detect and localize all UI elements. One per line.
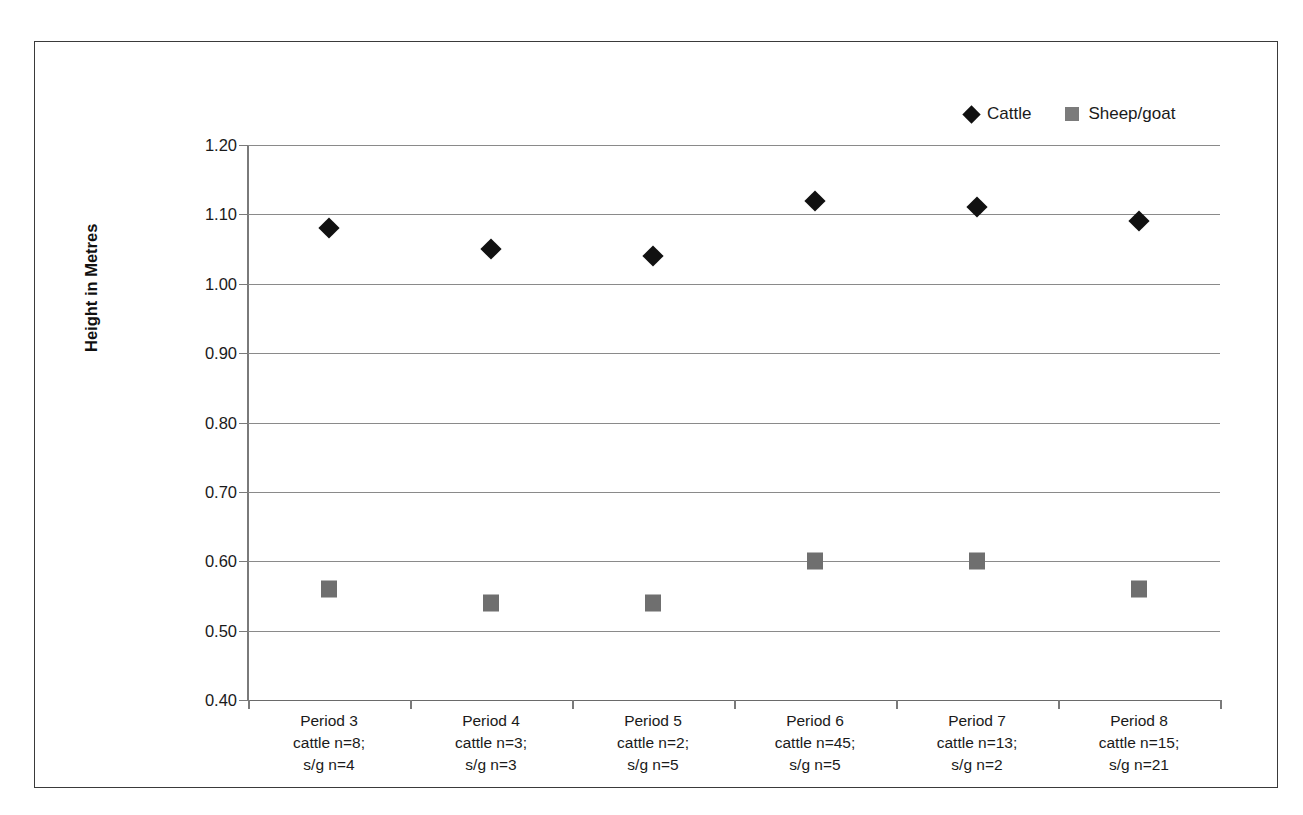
x-axis-label-line: cattle n=8;: [248, 732, 410, 754]
diamond-marker-icon: [962, 105, 980, 123]
x-axis-category-label: Period 8cattle n=15;s/g n=21: [1058, 710, 1220, 790]
legend-item-sheep-goat[interactable]: Sheep/goat: [1065, 104, 1175, 124]
data-point-sheep-goat[interactable]: [807, 553, 823, 570]
x-axis-label-line: cattle n=15;: [1058, 732, 1220, 754]
data-point-cattle[interactable]: [642, 245, 663, 266]
x-axis-category-label: Period 5cattle n=2;s/g n=5: [572, 710, 734, 790]
data-point-cattle[interactable]: [318, 218, 339, 239]
x-axis-label-line: Period 4: [410, 710, 572, 732]
gridline: [248, 492, 1220, 493]
y-axis-tick: [239, 214, 248, 215]
x-axis-label-line: s/g n=5: [572, 754, 734, 776]
data-point-sheep-goat[interactable]: [969, 553, 985, 570]
y-axis-tick-label: 1.00: [205, 274, 237, 293]
gridline: [248, 423, 1220, 424]
legend-label-sheep-goat: Sheep/goat: [1088, 104, 1175, 124]
data-point-cattle[interactable]: [804, 190, 825, 211]
x-axis-category-label: Period 7cattle n=13;s/g n=2: [896, 710, 1058, 790]
x-axis-tick: [410, 700, 412, 709]
y-axis-tick-label: 1.20: [205, 136, 237, 155]
y-axis-tick: [239, 561, 248, 562]
gridline: [248, 353, 1220, 354]
gridline: [248, 561, 1220, 562]
y-axis-tick: [239, 145, 248, 146]
data-point-sheep-goat[interactable]: [645, 594, 661, 611]
y-axis-tick: [239, 353, 248, 354]
x-axis-tick: [1220, 700, 1222, 709]
x-axis-tick-labels: Period 3cattle n=8;s/g n=4Period 4cattle…: [248, 710, 1220, 790]
x-axis-label-line: s/g n=2: [896, 754, 1058, 776]
x-axis-tick: [248, 700, 250, 709]
chart-frame: Cattle Sheep/goat Height in Metres 1.201…: [34, 41, 1278, 788]
y-axis-tick: [239, 423, 248, 424]
gridline: [248, 145, 1220, 146]
chart-legend: Cattle Sheep/goat: [965, 104, 1175, 124]
gridline: [248, 284, 1220, 285]
plot-inner: [248, 145, 1220, 700]
legend-label-cattle: Cattle: [987, 104, 1031, 124]
x-axis-label-line: s/g n=5: [734, 754, 896, 776]
x-axis-label-line: cattle n=13;: [896, 732, 1058, 754]
x-axis-tick: [1058, 700, 1060, 709]
y-axis-tick-label: 0.80: [205, 413, 237, 432]
plot-area: [248, 145, 1220, 700]
y-axis-tick: [239, 631, 248, 632]
y-axis-tick: [239, 492, 248, 493]
x-axis-tick: [896, 700, 898, 709]
x-axis-label-line: Period 7: [896, 710, 1058, 732]
x-axis-tick: [572, 700, 574, 709]
y-axis-tick-label: 0.40: [205, 691, 237, 710]
x-axis-label-line: s/g n=3: [410, 754, 572, 776]
legend-item-cattle[interactable]: Cattle: [965, 104, 1031, 124]
x-axis-category-label: Period 3cattle n=8;s/g n=4: [248, 710, 410, 790]
gridline: [248, 214, 1220, 215]
x-axis-label-line: s/g n=21: [1058, 754, 1220, 776]
square-marker-icon: [1065, 107, 1079, 121]
data-point-sheep-goat[interactable]: [1131, 581, 1147, 598]
y-axis-tick-label: 0.60: [205, 552, 237, 571]
x-axis-label-line: Period 8: [1058, 710, 1220, 732]
y-axis-title: Height in Metres: [82, 224, 101, 352]
x-axis-label-line: Period 3: [248, 710, 410, 732]
y-axis-tick-label: 0.50: [205, 621, 237, 640]
x-axis-tick: [734, 700, 736, 709]
y-axis-tick: [239, 284, 248, 285]
x-axis-label-line: cattle n=2;: [572, 732, 734, 754]
gridline: [248, 631, 1220, 632]
x-axis-label-line: Period 6: [734, 710, 896, 732]
data-point-sheep-goat[interactable]: [321, 581, 337, 598]
x-axis-label-line: cattle n=45;: [734, 732, 896, 754]
data-point-cattle[interactable]: [480, 238, 501, 259]
x-axis-category-label: Period 4cattle n=3;s/g n=3: [410, 710, 572, 790]
y-axis-tick: [239, 700, 248, 701]
x-axis-label-line: Period 5: [572, 710, 734, 732]
y-axis-tick-label: 1.10: [205, 205, 237, 224]
y-axis-tick-label: 0.70: [205, 482, 237, 501]
x-axis-label-line: cattle n=3;: [410, 732, 572, 754]
x-axis-label-line: s/g n=4: [248, 754, 410, 776]
y-axis-tick-label: 0.90: [205, 344, 237, 363]
x-axis-category-label: Period 6cattle n=45;s/g n=5: [734, 710, 896, 790]
y-axis-tick-labels: 1.201.101.000.900.800.700.600.500.40: [165, 145, 237, 700]
data-point-sheep-goat[interactable]: [483, 594, 499, 611]
